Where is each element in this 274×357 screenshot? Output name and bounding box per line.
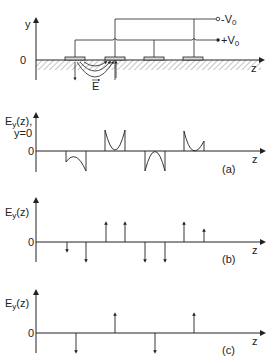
interdigital-transducer-diagram: y 0 z +V0 -V0 E Ey(z), [0,0,274,357]
origin-label: 0 [20,54,26,66]
panel-b-z-label: z [252,244,258,256]
z-axis-label: z [251,62,257,74]
electrode-4 [183,57,203,60]
panel-a-zero-label: 0 [28,145,34,157]
panel-b-zero-label: 0 [28,236,34,248]
positive-terminal [216,38,220,42]
panel-c: Ey(z) 0 z (c) [5,292,263,356]
substrate [36,60,261,70]
positive-terminal-label: +V0 [221,34,240,48]
negative-terminal [216,17,220,21]
panel-b: Ey(z) 0 z (b) [5,200,263,265]
panel-a-y-condition: y=0 [14,127,32,139]
y-axis-label: y [25,18,31,30]
electrode-structure: y 0 z +V0 -V0 E [20,13,262,92]
negative-terminal-label: -V0 [221,13,237,27]
panel-c-z-label: z [252,335,258,347]
field-vector-label: E [92,80,99,92]
panel-c-tag: (c) [222,344,235,356]
panel-b-tag: (b) [222,253,235,265]
negative-bus-wire [115,19,216,57]
panel-c-y-label: Ey(z) [5,297,29,311]
panel-a-tag: (a) [222,163,235,175]
panel-b-y-label: Ey(z) [5,206,29,220]
electrode-3 [144,57,164,60]
positive-bus-wire [75,39,216,58]
panel-a: Ey(z), y=0 0 z (a) [5,115,263,175]
panel-a-z-label: z [252,153,258,165]
electrode-1 [65,57,85,60]
panel-c-zero-label: 0 [28,327,34,339]
electrode-2 [105,57,125,60]
